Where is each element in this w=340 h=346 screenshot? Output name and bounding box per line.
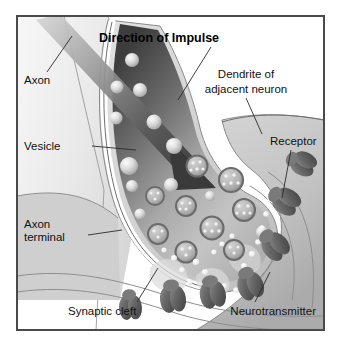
label-neurotransmitter: Neurotransmitter bbox=[230, 305, 316, 317]
synaptic-vesicle bbox=[148, 224, 168, 244]
synaptic-vesicle bbox=[205, 191, 215, 201]
synaptic-vesicle bbox=[219, 168, 243, 192]
synaptic-vesicle bbox=[126, 180, 138, 192]
synaptic-vesicle bbox=[164, 178, 178, 192]
synapse-diagram: Direction of Impulse Axon Vesicle Axon t… bbox=[0, 0, 340, 346]
neurotransmitter-dot bbox=[219, 241, 224, 246]
synaptic-vesicle bbox=[147, 115, 162, 130]
synaptic-vesicle bbox=[110, 112, 123, 125]
label-synaptic-cleft: Synaptic cleft bbox=[68, 305, 137, 317]
synaptic-vesicle bbox=[233, 199, 255, 221]
neurotransmitter-dot bbox=[259, 225, 265, 231]
neurotransmitter-dot bbox=[187, 279, 193, 285]
neurotransmitter-dot bbox=[171, 255, 177, 261]
label-direction-of-impulse: Direction of Impulse bbox=[99, 31, 219, 45]
synaptic-vesicle bbox=[201, 217, 224, 240]
synaptic-vesicle bbox=[224, 240, 244, 260]
synaptic-vesicle bbox=[176, 196, 196, 216]
label-dendrite-line1: Dendrite of bbox=[218, 68, 275, 80]
synaptic-vesicle bbox=[111, 81, 124, 94]
label-axon-terminal-line1: Axon bbox=[24, 218, 50, 230]
synaptic-vesicle bbox=[166, 138, 182, 154]
neurotransmitter-dot bbox=[229, 233, 234, 238]
synaptic-vesicle bbox=[187, 156, 208, 177]
synaptic-vesicle bbox=[176, 242, 197, 263]
diagram-canvas: Direction of Impulse Axon Vesicle Axon t… bbox=[17, 14, 324, 330]
neurotransmitter-dot bbox=[161, 247, 166, 252]
neurotransmitter-dot bbox=[193, 259, 199, 265]
label-vesicle: Vesicle bbox=[24, 140, 60, 152]
synaptic-vesicle bbox=[120, 157, 138, 175]
neurotransmitter-dot bbox=[263, 211, 269, 217]
label-axon: Axon bbox=[24, 74, 50, 86]
axon-terminal-trunk bbox=[17, 193, 120, 300]
synaptic-vesicle bbox=[146, 187, 164, 205]
label-axon-terminal-line2: terminal bbox=[24, 231, 65, 243]
synaptic-vesicle bbox=[133, 83, 147, 97]
neurotransmitter-dot bbox=[249, 251, 255, 257]
neurotransmitter-dot bbox=[211, 249, 216, 254]
synaptic-vesicle bbox=[135, 209, 146, 220]
synaptic-vesicle bbox=[125, 53, 139, 67]
label-dendrite-line2: adjacent neuron bbox=[205, 83, 287, 95]
neurotransmitter-dot bbox=[179, 267, 185, 273]
label-receptor: Receptor bbox=[270, 135, 317, 147]
neurotransmitter-dot bbox=[202, 269, 208, 275]
